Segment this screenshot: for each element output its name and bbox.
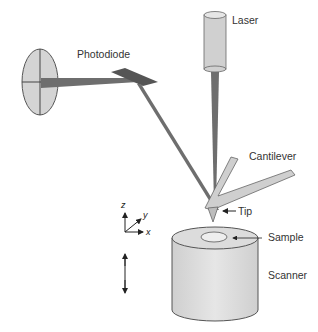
axis-x-label: x xyxy=(145,227,151,237)
sample xyxy=(201,232,227,242)
reflected-beam xyxy=(41,78,138,88)
mirror-icon xyxy=(111,68,158,86)
laser xyxy=(204,12,226,73)
scanner xyxy=(172,227,258,321)
laser-label: Laser xyxy=(232,14,259,26)
xyz-axes-icon xyxy=(125,213,143,232)
beam-to-mirror xyxy=(137,84,219,210)
sample-label: Sample xyxy=(268,231,304,243)
tip-label: Tip xyxy=(238,205,252,217)
afm-diagram: z y x Photodiode Laser Cantilever Tip Sa… xyxy=(0,0,318,332)
axis-y-label: y xyxy=(142,210,148,220)
axis-z-label: z xyxy=(120,200,126,210)
cantilever-label: Cantilever xyxy=(249,150,297,162)
scanner-label: Scanner xyxy=(268,269,308,281)
photodiode-label: Photodiode xyxy=(77,48,130,60)
